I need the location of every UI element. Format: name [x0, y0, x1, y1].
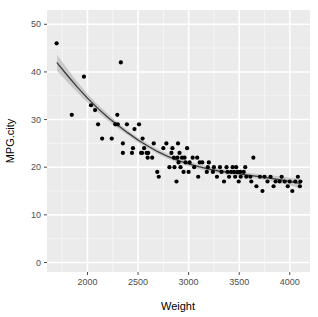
data-point [176, 141, 180, 145]
data-point [55, 41, 59, 45]
data-point [70, 113, 74, 117]
x-axis-title: Weight [161, 300, 195, 312]
data-point [258, 175, 262, 179]
data-point [146, 151, 150, 155]
x-tick-label: 2000 [77, 277, 97, 287]
data-point [233, 175, 237, 179]
plot-panel-background [47, 10, 310, 272]
data-point [183, 160, 187, 164]
data-point [296, 175, 300, 179]
data-point [119, 60, 123, 64]
data-point [215, 175, 219, 179]
data-point [219, 170, 223, 174]
data-point [227, 175, 231, 179]
data-point [268, 175, 272, 179]
data-point [243, 165, 247, 169]
data-point [140, 151, 144, 155]
data-point [274, 179, 278, 183]
y-tick-label: 0 [36, 258, 41, 268]
data-point [93, 108, 97, 112]
data-point [82, 75, 86, 79]
data-point [218, 165, 222, 169]
data-point [298, 184, 302, 188]
x-tick-label: 4000 [280, 277, 300, 287]
data-point [212, 165, 216, 169]
data-point [178, 165, 182, 169]
data-point [174, 179, 178, 183]
data-point [187, 170, 191, 174]
data-point [192, 165, 196, 169]
data-point [115, 113, 119, 117]
y-tick-label: 50 [31, 19, 41, 29]
data-point [110, 137, 114, 141]
data-point [130, 151, 134, 155]
data-point [185, 146, 189, 150]
plot-root: 20002500300035004000 01020304050 Weight … [0, 0, 318, 317]
y-tick-label: 40 [31, 67, 41, 77]
data-point [260, 189, 264, 193]
data-point [121, 141, 125, 145]
data-point [131, 146, 135, 150]
data-point [191, 156, 195, 160]
y-tick-label: 20 [31, 162, 41, 172]
data-point [244, 175, 248, 179]
data-point [265, 179, 269, 183]
data-point [182, 156, 186, 160]
data-point [286, 184, 290, 188]
data-point [155, 170, 159, 174]
data-point [283, 179, 287, 183]
data-point [271, 184, 275, 188]
data-point [181, 170, 185, 174]
data-point [161, 146, 165, 150]
data-point [222, 179, 226, 183]
data-point [146, 156, 150, 160]
data-point [195, 156, 199, 160]
data-point [278, 179, 282, 183]
data-point [237, 179, 241, 183]
data-point [239, 175, 243, 179]
data-point [164, 141, 168, 145]
data-point [211, 170, 215, 174]
data-point [176, 160, 180, 164]
data-point [290, 189, 294, 193]
data-point [169, 151, 173, 155]
data-point [242, 170, 246, 174]
data-point [172, 165, 176, 169]
x-tick-label: 3000 [179, 277, 199, 287]
data-point [137, 122, 141, 126]
data-point [100, 137, 104, 141]
data-point [142, 146, 146, 150]
data-point [288, 179, 292, 183]
data-point [177, 151, 181, 155]
data-point [280, 175, 284, 179]
y-tick-label: 10 [31, 210, 41, 220]
scatter-plot-figure: 20002500300035004000 01020304050 Weight … [0, 0, 318, 317]
data-point [200, 160, 204, 164]
data-point [248, 175, 252, 179]
data-point [152, 141, 156, 145]
data-point [262, 175, 266, 179]
data-point [170, 146, 174, 150]
data-point [140, 137, 144, 141]
data-point [207, 160, 211, 164]
data-point [254, 184, 258, 188]
data-point [251, 156, 255, 160]
data-point [293, 179, 297, 183]
data-point [121, 151, 125, 155]
x-tick-label: 3500 [229, 277, 249, 287]
x-tick-label: 2500 [128, 277, 148, 287]
data-point [298, 179, 302, 183]
data-point [167, 165, 171, 169]
data-point [116, 122, 120, 126]
data-point [150, 156, 154, 160]
data-point [205, 170, 209, 174]
data-point [96, 122, 100, 126]
data-point [224, 165, 228, 169]
data-point [249, 179, 253, 183]
data-point [234, 165, 238, 169]
data-point [196, 175, 200, 179]
data-point [175, 156, 179, 160]
data-point [157, 175, 161, 179]
data-point [206, 165, 210, 169]
y-axis-title: MPG.city [4, 118, 16, 163]
